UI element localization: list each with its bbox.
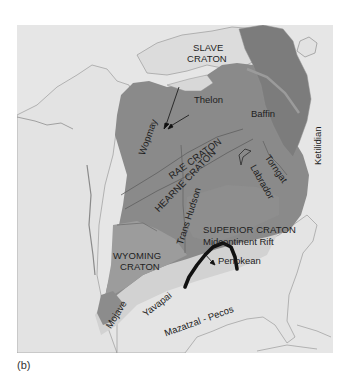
- label-slave-craton-1: SLAVE: [193, 43, 223, 53]
- label-wyoming-craton-1: WYOMING: [113, 251, 161, 261]
- label-superior-craton: SUPERIOR CRATON: [203, 225, 296, 235]
- label-baffin: Baffin: [251, 109, 275, 119]
- label-ketilidian: Ketilidian: [313, 126, 323, 165]
- label-wyoming-craton-2: CRATON: [120, 262, 160, 272]
- label-penokean: Penokean: [218, 256, 261, 266]
- label-thelon: Thelon: [194, 95, 223, 105]
- figure-caption-label: (b): [17, 359, 30, 371]
- label-midcontinent-rift: Midcontinent Rift: [203, 237, 274, 247]
- map-frame: SLAVE CRATON Thelon Baffin Wopmay RAE CR…: [17, 25, 333, 353]
- label-slave-craton-2: CRATON: [187, 54, 227, 64]
